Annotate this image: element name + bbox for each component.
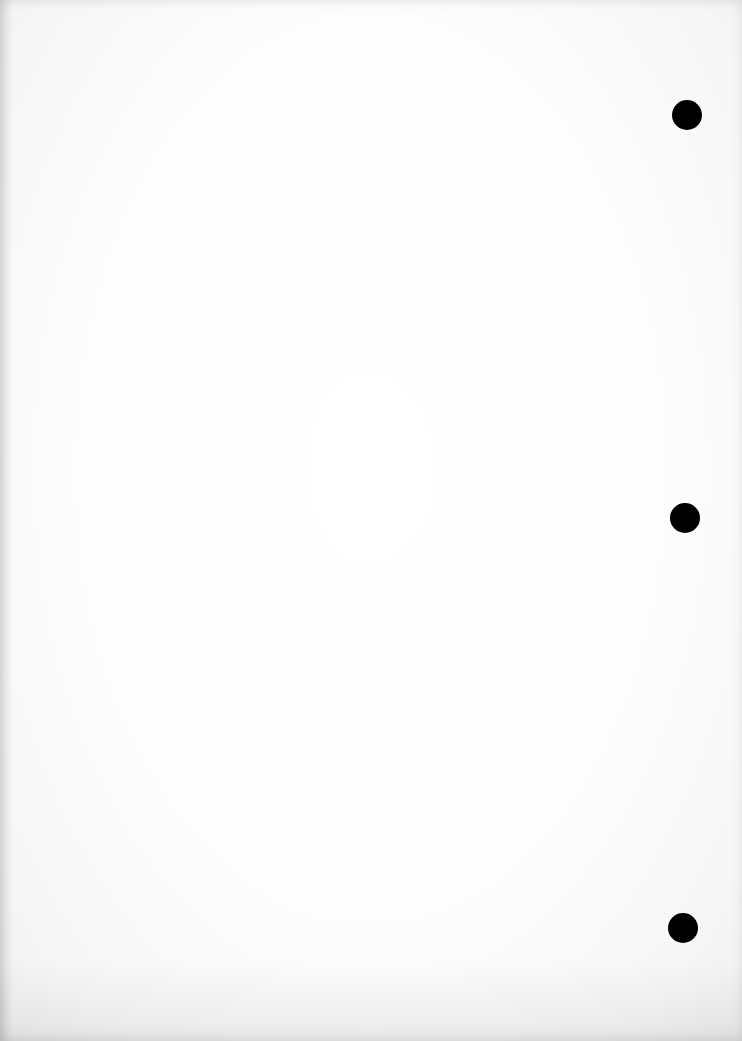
punch-hole-bottom: [668, 913, 698, 943]
blank-paper-sheet: [0, 0, 742, 1041]
punch-hole-top: [672, 100, 702, 130]
punch-hole-middle: [670, 503, 700, 533]
